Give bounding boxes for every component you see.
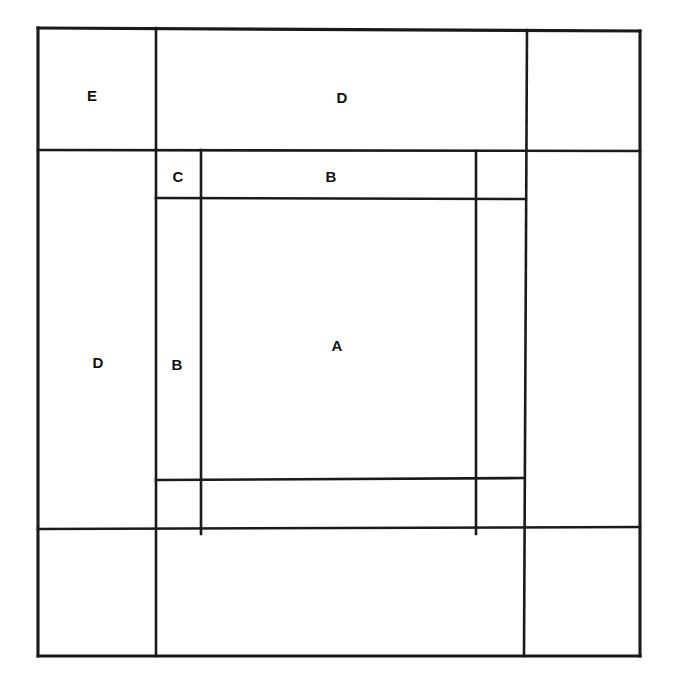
diagram-canvas: E D C B D B A (0, 0, 675, 688)
region-label-C-top-left: C (172, 169, 183, 184)
outer-ring-line-top (38, 150, 640, 151)
inner-ring-line-top (156, 198, 524, 199)
region-B-inner-strip-bottom[interactable] (201, 478, 476, 527)
region-label-B-left: B (171, 357, 182, 372)
region-label-E-top-left: E (87, 88, 97, 103)
region-C-inner-corner-square-bottom-right[interactable] (476, 478, 524, 527)
region-B-inner-strip-left[interactable] (156, 198, 201, 478)
region-E-outer-corner-square-top-right[interactable] (527, 28, 640, 150)
region-D-outer-strip-left[interactable] (38, 150, 156, 527)
region-D-outer-strip-right[interactable] (524, 150, 640, 527)
region-C-inner-corner-square-top-right[interactable] (476, 150, 524, 198)
region-label-B-top: B (325, 169, 336, 184)
region-E-outer-corner-square-bottom-left[interactable] (38, 527, 156, 656)
region-E-outer-corner-square-bottom-right[interactable] (527, 527, 640, 656)
region-label-D-left: D (92, 355, 103, 370)
region-label-D-top: D (336, 90, 347, 105)
region-C-inner-corner-square-bottom-left[interactable] (156, 478, 201, 527)
region-B-inner-strip-right[interactable] (476, 198, 524, 478)
region-B-inner-strip-top[interactable] (201, 150, 476, 198)
region-label-A-center: A (331, 338, 342, 353)
region-D-outer-strip-bottom[interactable] (156, 527, 527, 656)
